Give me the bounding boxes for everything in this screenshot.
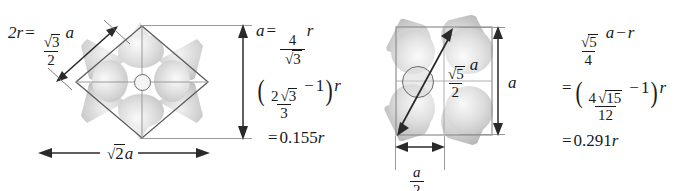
result-fraction: √54 bbox=[576, 34, 601, 69]
fraction-numerator: √5 bbox=[576, 34, 601, 51]
fraction-denominator: 4 bbox=[582, 51, 596, 69]
result-var-a: a bbox=[603, 23, 615, 42]
center-atom-circle bbox=[134, 74, 151, 91]
result-equals: = bbox=[560, 131, 574, 150]
label-diagonal-relation-fcc: √52a bbox=[441, 56, 478, 101]
left-paren: ( bbox=[575, 81, 582, 103]
radicand: 3 bbox=[288, 88, 298, 105]
minus-sign: − bbox=[614, 23, 628, 42]
results-fcc: √54a−r =(4√1512−1)r =0.291r bbox=[560, 24, 686, 149]
fraction-denominator: 12 bbox=[595, 106, 616, 124]
diagonal-var: a bbox=[470, 55, 479, 74]
constant-one: 1 bbox=[641, 78, 650, 97]
label-horizontal-a-over-2: a2 bbox=[408, 154, 426, 191]
right-paren: ) bbox=[651, 81, 658, 103]
result-lhs: a bbox=[256, 21, 265, 40]
result-equals: = bbox=[266, 128, 280, 147]
a-over-2-fraction: a2 bbox=[410, 165, 424, 191]
arrow-vertical-a-bcc bbox=[236, 22, 250, 142]
fraction-denominator: 3 bbox=[277, 104, 291, 122]
result-trailing-r: r bbox=[628, 23, 635, 42]
numerator-coefficient: 4 bbox=[589, 90, 597, 106]
result-trailing-r: r bbox=[659, 78, 666, 97]
radicand: 15 bbox=[605, 90, 622, 107]
result-value: 0.291 bbox=[574, 131, 612, 150]
fraction-numerator: √5 bbox=[443, 66, 468, 83]
result-fraction: 4√1512 bbox=[586, 90, 626, 125]
fraction-numerator: 2√3 bbox=[268, 88, 300, 105]
arrow-edge-2r bbox=[46, 18, 130, 90]
diagonal-fraction: √52 bbox=[443, 66, 468, 101]
result-bracket-expression-fcc: =(4√1512−1)r bbox=[560, 79, 686, 124]
fraction-numerator: 4 bbox=[286, 33, 300, 49]
result-equals: = bbox=[265, 21, 279, 40]
label-horizontal-sqrt2a: √2a bbox=[100, 144, 138, 162]
minus-sign: − bbox=[302, 76, 316, 95]
result-unit-r: r bbox=[318, 128, 325, 147]
result-equals: = bbox=[560, 78, 574, 97]
numerator-coefficient: 2 bbox=[271, 88, 279, 104]
figure-canvas: 2r=√32a bbox=[0, 0, 690, 191]
result-numeric-fcc: =0.291r bbox=[560, 132, 686, 149]
horizontal-dimension-var: a bbox=[125, 144, 134, 163]
fraction-numerator: 4√15 bbox=[586, 90, 626, 107]
result-value: 0.155 bbox=[280, 128, 318, 147]
fraction-denominator: 2 bbox=[410, 181, 424, 191]
fraction-numerator: a bbox=[410, 165, 424, 181]
result-trailing-r: r bbox=[334, 76, 341, 95]
result-trailing-r: r bbox=[307, 21, 314, 40]
arrow-horizontal-a-over-2 bbox=[393, 140, 447, 154]
radicand: 5 bbox=[588, 34, 598, 51]
minus-sign: − bbox=[627, 78, 641, 97]
radicand: 2 bbox=[114, 144, 125, 162]
radicand: 5 bbox=[455, 66, 465, 83]
result-fraction: 4√3 bbox=[280, 33, 305, 68]
result-unit-r: r bbox=[612, 131, 619, 150]
arrow-vertical-a-fcc bbox=[491, 24, 505, 138]
radicand: 3 bbox=[292, 50, 302, 68]
edge-relation-lhs: 2r bbox=[8, 23, 23, 42]
left-paren: ( bbox=[257, 79, 264, 101]
result-fraction: 2√33 bbox=[268, 88, 300, 123]
fraction-denominator: √3 bbox=[280, 49, 305, 68]
edge-relation-equals: = bbox=[23, 23, 37, 42]
result-root5-over-4-a-minus-r: √54a−r bbox=[560, 24, 686, 69]
label-vertical-a-fcc: a bbox=[508, 74, 517, 91]
fraction-denominator: 2 bbox=[449, 83, 463, 101]
constant-one: 1 bbox=[316, 76, 325, 95]
right-paren: ) bbox=[326, 79, 333, 101]
